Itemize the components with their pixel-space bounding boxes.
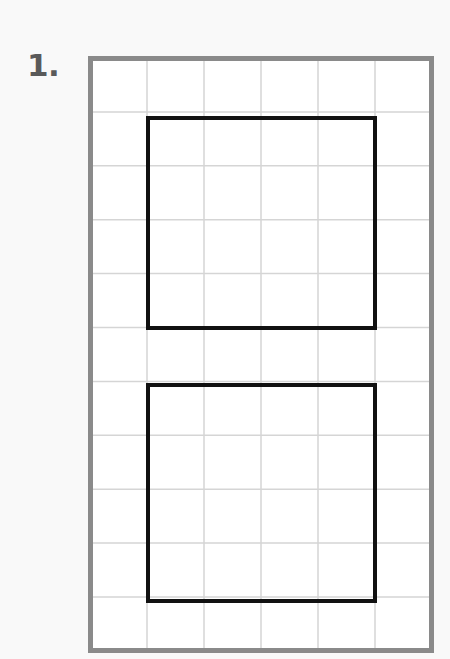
grid-svg xyxy=(88,56,434,653)
problem-number-label: 1. xyxy=(27,50,59,81)
worksheet-canvas: 1. xyxy=(0,0,450,659)
grid-figure xyxy=(88,56,434,653)
